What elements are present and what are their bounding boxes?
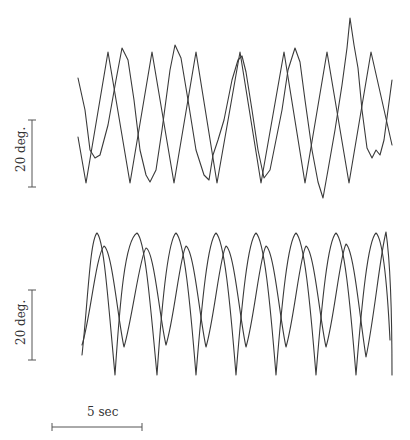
top-panel [78,18,392,198]
bottom-panel [82,232,392,375]
bottom-vertical-scale-bar [28,290,36,360]
top-vertical-scale-bar [28,120,36,187]
figure-caption-fragment [0,432,410,440]
bottom-trace-d [82,232,392,375]
bottom-trace-c [82,233,390,375]
time-scale-bar [52,423,142,431]
time-scale-label: 5 sec [87,405,118,419]
figure-canvas [0,0,410,440]
top-trace-b [78,18,392,198]
top-scale-label: 20 deg. [14,127,28,172]
bottom-scale-label: 20 deg. [14,300,28,345]
